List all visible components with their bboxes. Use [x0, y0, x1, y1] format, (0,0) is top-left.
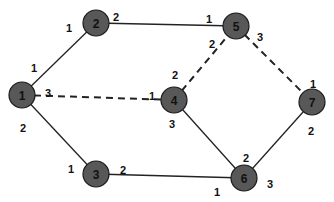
port-label: 3	[45, 87, 51, 99]
node-1: 1	[9, 82, 35, 108]
node-3: 3	[83, 161, 109, 187]
port-label: 1	[66, 22, 72, 34]
node-label: 3	[93, 168, 100, 182]
edge-1-2	[22, 23, 96, 95]
node-label: 4	[171, 94, 178, 108]
node-label: 2	[93, 17, 100, 31]
port-label: 1	[206, 13, 212, 25]
edge-4-6	[174, 100, 244, 178]
port-label: 2	[20, 122, 26, 134]
edge-5-7	[236, 26, 312, 102]
port-label: 3	[257, 31, 263, 43]
port-label: 1	[68, 163, 74, 175]
node-2: 2	[83, 10, 109, 36]
port-label: 1	[310, 78, 316, 90]
node-label: 5	[233, 20, 240, 34]
node-5: 5	[223, 13, 249, 39]
edge-3-6	[96, 174, 244, 178]
node-7: 7	[299, 89, 325, 115]
port-label: 2	[120, 164, 126, 176]
port-label: 1	[214, 186, 220, 198]
node-6: 6	[231, 165, 257, 191]
nodes-layer: 1234567	[9, 10, 325, 191]
port-label: 2	[308, 125, 314, 137]
port-label: 3	[267, 178, 273, 190]
port-label: 3	[169, 118, 175, 130]
port-label: 1	[149, 90, 155, 102]
network-diagram: 1234567 112131223121232132	[0, 0, 334, 202]
edge-1-3	[22, 95, 96, 174]
port-label: 1	[31, 62, 37, 74]
node-label: 1	[19, 89, 26, 103]
edge-2-5	[96, 23, 236, 26]
port-label: 2	[243, 152, 249, 164]
edge-4-5	[174, 26, 236, 100]
node-label: 6	[241, 172, 248, 186]
port-label: 2	[209, 38, 215, 50]
node-4: 4	[161, 87, 187, 113]
port-label: 2	[113, 11, 119, 23]
node-label: 7	[309, 96, 316, 110]
port-label: 2	[172, 69, 178, 81]
edge-6-7	[244, 102, 312, 178]
